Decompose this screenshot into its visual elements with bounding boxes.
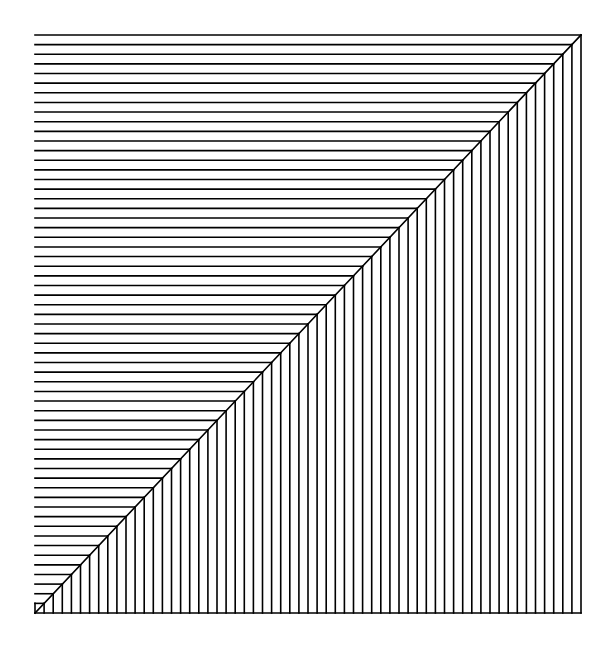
- line-pattern-diagram: [0, 0, 612, 651]
